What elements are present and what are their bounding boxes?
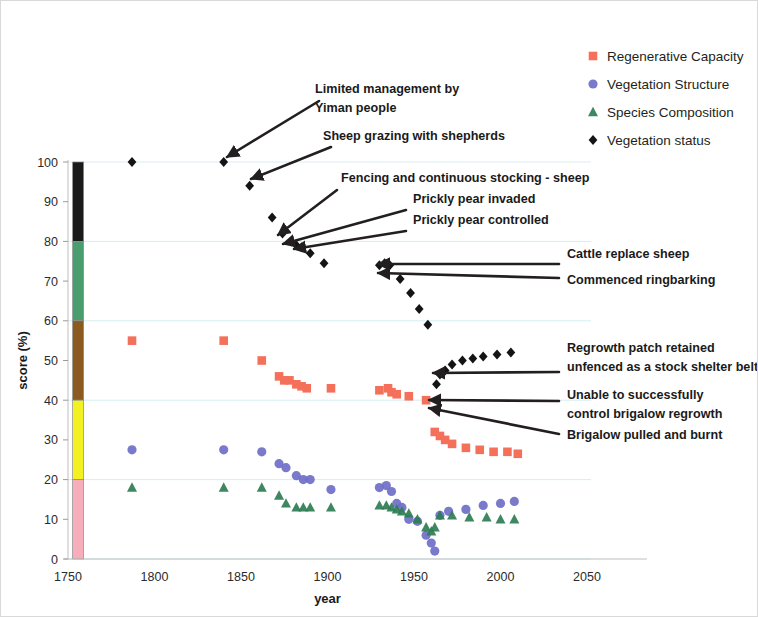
data-point-1-2 (257, 447, 266, 456)
x-tick-label-3: 1900 (314, 570, 342, 584)
color-band-2 (73, 321, 84, 400)
data-point-1-22 (479, 501, 488, 510)
annotation-label-fencing-stocking-line0: Fencing and continuous stocking - sheep (341, 171, 590, 185)
data-point-0-9 (327, 384, 336, 393)
annotation-arrow-unable-control-regrowth (429, 400, 559, 401)
data-point-1-17 (427, 539, 436, 548)
data-point-3-2 (245, 181, 254, 191)
annotation-arrow-brigalow-pulled-burnt (429, 408, 559, 434)
legend-label-3: Vegetation status (607, 133, 711, 148)
legend-item-species-composition[interactable]: Species Composition (588, 105, 734, 120)
data-point-0-14 (405, 392, 414, 401)
data-point-0-8 (302, 384, 311, 393)
legend-marker-triangle-icon (588, 107, 598, 116)
annotation-arrow-regrowth-patch (433, 372, 559, 373)
annotation-label-regrowth-patch-line1: unfenced as a stock shelter belt (567, 360, 758, 374)
x-tick-label-1: 1800 (141, 570, 169, 584)
annotation-label-limited-management-line1: Yiman people (315, 101, 396, 115)
color-band-4 (73, 480, 84, 559)
vegetation-condition-scatter-chart: 0102030405060708090100175018001850190019… (1, 1, 758, 617)
data-point-3-0 (128, 157, 137, 167)
data-point-0-1 (219, 336, 228, 345)
data-point-3-25 (506, 348, 515, 358)
data-point-3-8 (306, 248, 315, 258)
data-point-0-19 (448, 440, 457, 449)
data-point-3-1 (219, 157, 228, 167)
x-tick-label-4: 1950 (400, 570, 428, 584)
annotation-arrow-limited-management (227, 101, 319, 157)
data-point-1-23 (496, 499, 505, 508)
color-band-0 (73, 162, 84, 241)
annotation-limited-management: Limited management byYiman people (227, 82, 459, 157)
legend-item-vegetation-status[interactable]: Vegetation status (589, 133, 711, 148)
y-tick-label-4: 40 (44, 394, 58, 408)
chart-root: 0102030405060708090100175018001850190019… (0, 0, 758, 617)
legend-item-vegetation-structure[interactable]: Vegetation Structure (588, 77, 729, 92)
data-point-2-22 (482, 512, 492, 521)
data-point-1-24 (510, 497, 519, 506)
data-point-2-2 (257, 482, 267, 491)
data-point-0-22 (489, 448, 498, 457)
data-point-3-3 (268, 213, 277, 223)
legend-label-1: Vegetation Structure (607, 77, 729, 92)
data-point-2-3 (274, 490, 284, 499)
legend-marker-diamond-icon (589, 135, 598, 145)
x-tick-label-6: 2050 (573, 570, 601, 584)
data-point-3-24 (493, 350, 502, 360)
annotation-arrow-prickly-pear-controlled (294, 231, 406, 249)
annotation-commenced-ringbarking: Commenced ringbarking (378, 273, 715, 287)
annotation-label-prickly-pear-invaded-line0: Prickly pear invaded (413, 192, 536, 206)
data-point-0-23 (503, 448, 512, 457)
data-point-3-13 (396, 274, 405, 284)
annotation-cattle-replace-sheep: Cattle replace sheep (378, 247, 690, 264)
legend-item-regenerative-capacity[interactable]: Regenerative Capacity (589, 49, 744, 64)
data-point-1-1 (219, 445, 228, 454)
annotation-label-regrowth-patch-line0: Regrowth patch retained (567, 341, 715, 355)
data-point-0-2 (257, 356, 266, 365)
annotation-label-brigalow-pulled-burnt-line0: Brigalow pulled and burnt (567, 428, 723, 442)
x-tick-label-2: 1850 (227, 570, 255, 584)
data-point-0-13 (392, 390, 401, 399)
data-point-0-24 (514, 449, 523, 458)
data-point-3-14 (406, 288, 415, 298)
x-tick-label-5: 2000 (487, 570, 515, 584)
x-axis-title: year (314, 591, 341, 606)
annotation-label-unable-control-regrowth-line1: control brigalow regrowth (567, 407, 722, 421)
annotation-label-sheep-grazing-line0: Sheep grazing with shepherds (323, 129, 505, 143)
series-vegetation-structure (127, 445, 519, 555)
y-tick-label-1: 10 (44, 513, 58, 527)
legend-label-2: Species Composition (607, 105, 734, 120)
data-point-3-9 (320, 258, 329, 268)
y-tick-label-0: 0 (51, 553, 58, 567)
annotation-label-unable-control-regrowth-line0: Unable to successfully (567, 388, 703, 402)
data-point-3-22 (468, 354, 477, 364)
series-species-composition (127, 482, 519, 535)
axes: 0102030405060708090100175018001850190019… (15, 156, 647, 607)
legend: Regenerative CapacityVegetation Structur… (588, 49, 744, 148)
annotation-arrow-prickly-pear-invaded (283, 210, 406, 244)
data-point-2-1 (219, 482, 229, 491)
data-point-1-0 (127, 445, 136, 454)
annotation-label-commenced-ringbarking-line0: Commenced ringbarking (567, 273, 715, 287)
data-point-1-4 (281, 463, 290, 472)
annotation-label-limited-management-line0: Limited management by (315, 82, 459, 96)
data-point-3-21 (458, 356, 467, 366)
annotation-arrow-fencing-stocking (278, 190, 337, 235)
y-tick-label-2: 20 (44, 473, 58, 487)
y-tick-label-5: 50 (44, 354, 58, 368)
y-tick-label-10: 100 (37, 156, 58, 170)
data-point-0-10 (375, 386, 384, 395)
y-tick-label-8: 80 (44, 235, 58, 249)
y-tick-label-6: 60 (44, 314, 58, 328)
annotation-arrow-sheep-grazing (251, 147, 331, 179)
y-tick-label-9: 90 (44, 195, 58, 209)
data-point-1-8 (326, 485, 335, 494)
data-point-3-15 (415, 304, 424, 314)
condition-color-bar (73, 162, 84, 559)
data-point-0-20 (462, 444, 471, 453)
data-point-1-11 (387, 487, 396, 496)
data-point-2-7 (305, 502, 315, 511)
data-point-3-17 (432, 379, 441, 389)
legend-label-0: Regenerative Capacity (607, 49, 744, 64)
data-point-0-21 (475, 446, 484, 455)
